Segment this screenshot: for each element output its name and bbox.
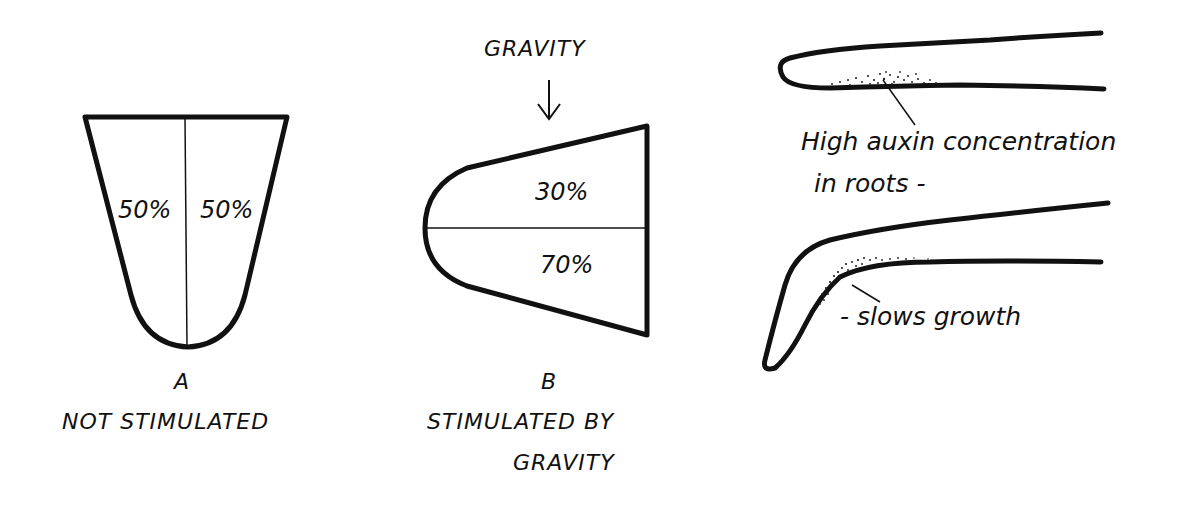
horizontal-root-outline — [780, 33, 1104, 89]
bent-root-outline — [764, 203, 1108, 369]
slows-growth-annotation: - slows growth — [840, 302, 1021, 331]
down-arrow-icon — [538, 80, 560, 119]
panel-b-letter: B — [541, 369, 557, 394]
upper-percent-label: 30% — [535, 178, 588, 206]
panel-roots-auxin: High auxin concentration in roots - — [764, 33, 1116, 369]
auxin-annotation-line2: in roots - — [814, 169, 925, 198]
auxin-annotation-line1: High auxin concentration — [801, 127, 1116, 156]
panel-b-stimulated-by-gravity: GRAVITY 30% 70% B STIMULATED BY GRAVITY — [425, 36, 647, 475]
leader-line-slows-growth — [852, 285, 880, 302]
divider-line-a — [185, 117, 187, 347]
panel-a-caption: NOT STIMULATED — [62, 409, 269, 434]
panel-a-letter: A — [172, 369, 190, 394]
right-percent-label: 50% — [200, 196, 253, 224]
lower-percent-label: 70% — [540, 251, 593, 279]
gravity-label: GRAVITY — [484, 36, 586, 61]
panel-b-caption-line2: GRAVITY — [513, 450, 615, 475]
root-tip-outline-b — [425, 126, 647, 335]
panel-a-not-stimulated: 50% 50% A NOT STIMULATED — [62, 117, 287, 434]
auxin-gravity-diagram: 50% 50% A NOT STIMULATED GRAVITY 30% 70%… — [0, 0, 1197, 517]
panel-b-caption-line1: STIMULATED BY — [427, 409, 615, 434]
left-percent-label: 50% — [118, 196, 171, 224]
